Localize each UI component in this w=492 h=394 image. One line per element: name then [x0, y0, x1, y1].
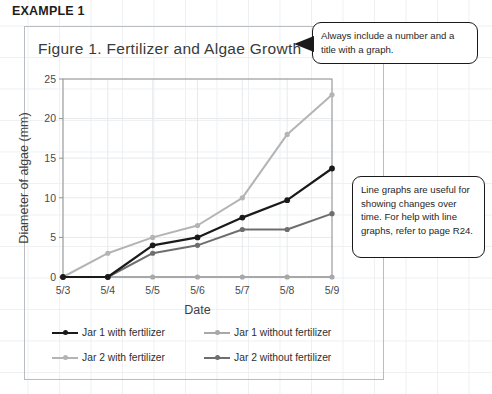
legend-swatch-icon: [204, 328, 230, 338]
figure-title: Figure 1. Fertilizer and Algae Growth: [38, 40, 302, 58]
legend-label: Jar 2 without fertilizer: [234, 352, 331, 363]
chart-legend: Jar 1 with fertilizer Jar 1 without fert…: [52, 327, 352, 363]
legend-item: Jar 1 without fertilizer: [204, 327, 356, 338]
legend-item: Jar 2 without fertilizer: [204, 352, 356, 363]
legend-label: Jar 1 without fertilizer: [234, 327, 331, 338]
legend-item: Jar 1 with fertilizer: [52, 327, 204, 338]
legend-swatch-icon: [52, 328, 78, 338]
legend-swatch-icon: [204, 353, 230, 363]
legend-label: Jar 1 with fertilizer: [82, 327, 165, 338]
legend-label: Jar 2 with fertilizer: [82, 352, 165, 363]
callout-title-tail-icon: [294, 36, 314, 52]
callout-title-note: Always include a number and a title with…: [312, 22, 478, 64]
legend-item: Jar 2 with fertilizer: [52, 352, 204, 363]
example-heading: EXAMPLE 1: [12, 4, 85, 18]
legend-swatch-icon: [52, 353, 78, 363]
callout-usage-note: Line graphs are useful for showing chang…: [352, 176, 485, 258]
